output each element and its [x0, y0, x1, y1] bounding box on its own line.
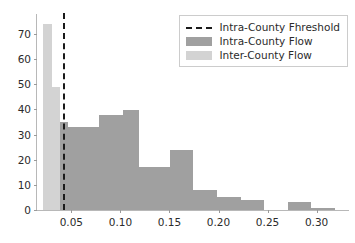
y-tick-mark — [34, 185, 37, 186]
histogram-bar — [76, 127, 84, 210]
histogram-bar — [193, 190, 201, 210]
y-tick-label: 40 — [18, 103, 31, 115]
histogram-bar — [209, 190, 217, 210]
y-tick-mark — [34, 34, 37, 35]
histogram-bar — [52, 87, 60, 210]
histogram-bar — [303, 202, 311, 210]
histogram-bar — [146, 167, 154, 210]
x-tick-mark — [71, 210, 72, 213]
histogram-bar — [311, 208, 319, 211]
histogram-bar — [256, 200, 264, 210]
histogram-figure: 010203040506070 0.050.100.150.200.250.30… — [0, 0, 355, 243]
chart-title — [36, 0, 348, 10]
histogram-bar — [170, 150, 178, 210]
histogram-bar — [107, 115, 115, 210]
histogram-bar — [225, 197, 233, 210]
intra-county-swatch-icon — [186, 37, 212, 46]
histogram-bar — [233, 197, 241, 210]
histogram-bar — [178, 150, 186, 210]
legend-item-inter-county-flow: Inter-County Flow — [186, 48, 340, 62]
histogram-bar — [84, 127, 92, 210]
intra-county-threshold-line — [63, 13, 65, 210]
x-tick-mark — [317, 210, 318, 213]
y-tick-label: 10 — [18, 179, 31, 191]
histogram-bar — [327, 208, 335, 211]
histogram-bar — [288, 202, 296, 210]
legend-item-threshold: Intra-County Fhreshold — [186, 20, 340, 34]
histogram-bar — [91, 127, 99, 210]
x-tick-label: 0.20 — [207, 216, 230, 228]
y-tick-label: 50 — [18, 78, 31, 90]
y-tick-mark — [34, 59, 37, 60]
y-tick-mark — [34, 160, 37, 161]
histogram-bar — [99, 115, 107, 210]
inter-county-swatch-icon — [186, 51, 212, 60]
legend-label-inter-county-flow: Inter-County Flow — [219, 49, 311, 61]
y-tick-mark — [34, 109, 37, 110]
y-tick-label: 0 — [24, 204, 31, 216]
chart-legend: Intra-County Fhreshold Intra-County Flow… — [179, 15, 348, 67]
histogram-bar — [296, 202, 304, 210]
x-tick-label: 0.05 — [60, 216, 83, 228]
histogram-bar — [319, 208, 327, 211]
legend-item-intra-county-flow: Intra-County Flow — [186, 34, 340, 48]
histogram-bar — [201, 190, 209, 210]
histogram-bar — [115, 115, 123, 210]
histogram-bar — [248, 200, 256, 210]
x-tick-label: 0.25 — [256, 216, 279, 228]
x-tick-mark — [268, 210, 269, 213]
x-tick-mark — [120, 210, 121, 213]
histogram-bar — [131, 110, 139, 211]
plot-area: 010203040506070 0.050.100.150.200.250.30… — [36, 14, 349, 211]
x-tick-label: 0.15 — [158, 216, 181, 228]
x-tick-label: 0.10 — [109, 216, 132, 228]
legend-label-threshold: Intra-County Fhreshold — [219, 21, 340, 33]
histogram-bar — [139, 167, 147, 210]
histogram-bar — [186, 150, 194, 210]
x-tick-mark — [169, 210, 170, 213]
y-tick-label: 20 — [18, 154, 31, 166]
histogram-bar — [217, 197, 225, 210]
y-tick-mark — [34, 84, 37, 85]
histogram-bar — [154, 167, 162, 210]
histogram-bar — [43, 24, 52, 210]
x-tick-label: 0.30 — [305, 216, 328, 228]
x-tick-mark — [219, 210, 220, 213]
y-tick-mark — [34, 135, 37, 136]
dashed-line-swatch-icon — [186, 21, 212, 33]
histogram-bar — [123, 110, 131, 211]
y-tick-mark — [34, 210, 37, 211]
histogram-bar — [68, 127, 76, 210]
legend-label-intra-county-flow: Intra-County Flow — [219, 35, 312, 47]
histogram-bar — [162, 167, 170, 210]
y-tick-label: 60 — [18, 53, 31, 65]
y-tick-label: 30 — [18, 129, 31, 141]
y-tick-label: 70 — [18, 28, 31, 40]
histogram-bar — [241, 200, 249, 210]
